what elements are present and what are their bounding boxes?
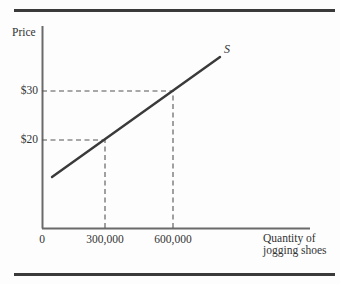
supply-curve-label: S: [224, 43, 230, 56]
x-axis-title-line-1: Quantity of: [263, 232, 327, 244]
x-tick-label-600000: 600,000: [144, 233, 202, 245]
x-tick-label-300000: 300,000: [76, 233, 134, 245]
supply-curve-figure: Price $30 $20 0 300,000 600,000 Quantity…: [0, 0, 340, 284]
supply-curve-line: [52, 57, 220, 177]
y-tick-label-20: $20: [4, 133, 38, 145]
x-tick-label-0: 0: [34, 233, 50, 245]
y-tick-label-30: $30: [4, 84, 38, 96]
x-axis-title-line-2: jogging shoes: [263, 244, 327, 256]
x-axis-title: Quantity of jogging shoes: [263, 232, 327, 256]
y-axis-title: Price: [12, 26, 36, 38]
